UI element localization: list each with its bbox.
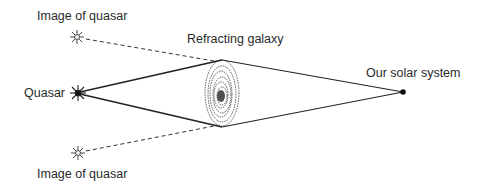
quasar-star-icon bbox=[70, 85, 86, 101]
quasar-image-bottom-icon bbox=[71, 146, 85, 160]
label-quasar: Quasar bbox=[24, 87, 65, 100]
apparent-ray-bottom bbox=[86, 126, 214, 151]
label-image-bottom: Image of quasar bbox=[37, 168, 127, 181]
light-path-quasar-top bbox=[80, 60, 222, 92]
solar-system-dot-icon bbox=[400, 89, 406, 95]
label-image-top: Image of quasar bbox=[37, 10, 127, 23]
label-solar-system: Our solar system bbox=[366, 67, 460, 80]
light-path-bottom-observer bbox=[222, 92, 403, 127]
quasar-image-top-icon bbox=[70, 30, 84, 44]
gravitational-lensing-diagram bbox=[0, 0, 482, 185]
label-galaxy: Refracting galaxy bbox=[187, 33, 284, 46]
light-path-quasar-bottom bbox=[80, 94, 222, 127]
